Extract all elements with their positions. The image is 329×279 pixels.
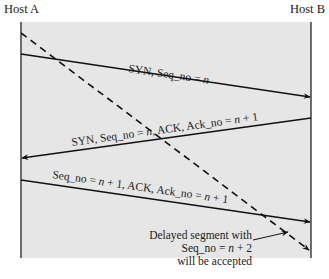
note-line-2: Seq_no = n + 2 <box>182 242 253 255</box>
note-line-3: will be accepted <box>177 255 252 268</box>
diagram-panel <box>21 22 311 258</box>
sequence-diagram: SYN, Seq_no = n SYN, Seq_no = n, ACK, Ac… <box>0 0 329 279</box>
note-line-1: Delayed segment with <box>149 229 252 242</box>
